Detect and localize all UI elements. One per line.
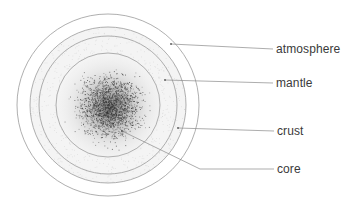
label-atmosphere: atmosphere bbox=[276, 42, 340, 56]
leader-dot-atmosphere bbox=[170, 43, 172, 45]
leader-dot-core bbox=[121, 130, 123, 132]
label-crust: crust bbox=[277, 124, 304, 138]
label-mantle: mantle bbox=[276, 76, 313, 90]
leader-dot-crust bbox=[177, 127, 179, 129]
leader-dot-mantle bbox=[164, 79, 166, 81]
leader-line-atmosphere bbox=[171, 44, 273, 49]
leader-line-crust bbox=[178, 128, 274, 131]
earth-layers-diagram bbox=[0, 0, 351, 209]
label-core: core bbox=[277, 162, 301, 176]
